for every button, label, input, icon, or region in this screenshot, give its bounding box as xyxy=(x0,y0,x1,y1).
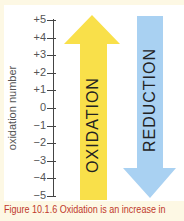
reduction-label: REDUCTION xyxy=(141,48,159,152)
oxidation-label: OXIDATION xyxy=(84,77,102,173)
figure-caption: Figure 10.1.6 Oxidation is an increase i… xyxy=(4,203,165,215)
